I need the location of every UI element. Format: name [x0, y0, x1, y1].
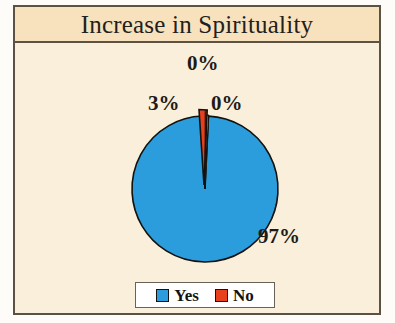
chart-title-band: Increase in Spirituality [15, 7, 379, 43]
data-label-right: 0% [211, 93, 243, 114]
scanned-page-background: Increase in Spirituality 0% 3% 0% 97% [0, 0, 395, 323]
legend-item-no[interactable]: No [215, 287, 254, 304]
data-label-top: 0% [187, 53, 219, 74]
data-label-no: 3% [148, 93, 180, 114]
chart-title: Increase in Spirituality [81, 12, 314, 37]
data-label-yes: 97% [258, 226, 300, 247]
pie-chart-plot-area: 0% 3% 0% 97% Yes No [15, 43, 379, 313]
legend-item-yes[interactable]: Yes [156, 287, 199, 304]
legend-label-yes: Yes [174, 287, 199, 304]
legend-swatch-yes-icon [156, 289, 169, 302]
chart-legend: Yes No [135, 282, 275, 308]
legend-swatch-no-icon [215, 289, 228, 302]
legend-label-no: No [233, 287, 254, 304]
pie-chart-graphic [15, 43, 379, 313]
chart-frame: Increase in Spirituality 0% 3% 0% 97% [13, 5, 381, 315]
